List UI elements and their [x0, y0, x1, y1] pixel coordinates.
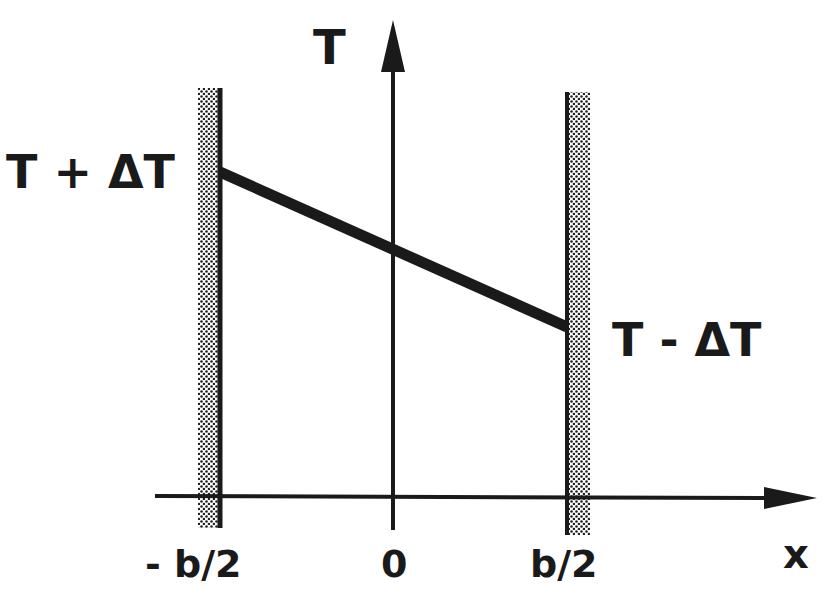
- left-temperature-label: T + ΔT: [6, 145, 176, 199]
- tick-label-zero: 0: [381, 542, 407, 586]
- t-axis: [381, 20, 405, 530]
- right-wall-stipple: [569, 92, 590, 535]
- x-axis: [155, 487, 817, 509]
- temperature-profile-diagram: T x T + ΔT T - ΔT - b/2 0 b/2: [0, 0, 828, 590]
- right-wall: [567, 92, 590, 535]
- x-axis-label: x: [783, 531, 809, 577]
- left-wall: [198, 88, 220, 528]
- x-axis-line: [155, 496, 780, 498]
- tick-label-b-half: b/2: [530, 542, 598, 586]
- t-axis-label: T: [313, 19, 346, 75]
- x-axis-arrowhead-icon: [764, 487, 817, 509]
- left-wall-stipple: [198, 88, 218, 528]
- t-axis-arrowhead-icon: [381, 20, 405, 72]
- right-temperature-label: T - ΔT: [612, 313, 762, 367]
- tick-label-minus-b-half: - b/2: [145, 542, 242, 586]
